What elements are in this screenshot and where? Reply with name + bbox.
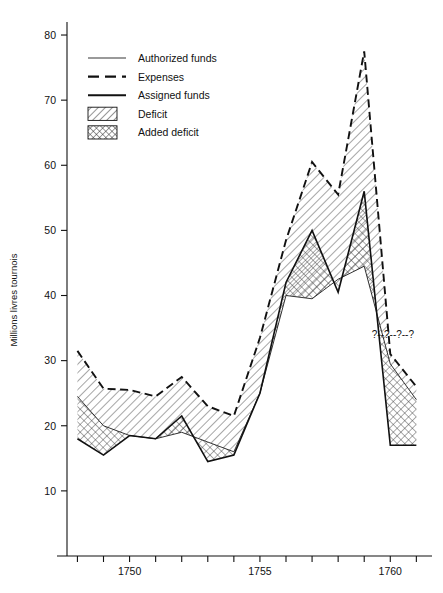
y-tick-label: 10 xyxy=(44,485,56,497)
chart-legend: Authorized fundsExpensesAssigned fundsDe… xyxy=(88,52,217,139)
x-axis-tick-labels: 175017551760 xyxy=(118,565,402,577)
x-tick-label: 1760 xyxy=(379,565,403,577)
y-axis-title: Millions livres tournois xyxy=(8,253,19,346)
chart-figure: 1020304050607080 175017551760 Millions l… xyxy=(0,0,443,593)
legend-label: Added deficit xyxy=(138,126,199,138)
legend-label: Assigned funds xyxy=(138,89,210,101)
legend-swatch-diagonal-hatch-box xyxy=(88,107,117,120)
legend-swatch-cross-hatch-box xyxy=(88,126,117,139)
x-tick-label: 1755 xyxy=(248,565,272,577)
legend-item-assigned-funds: Assigned funds xyxy=(88,89,210,101)
y-tick-label: 70 xyxy=(44,94,56,106)
y-tick-label: 40 xyxy=(44,289,56,301)
chart-canvas: 1020304050607080 175017551760 Millions l… xyxy=(0,0,443,593)
y-axis-tick-labels: 1020304050607080 xyxy=(44,29,56,497)
y-tick-label: 50 xyxy=(44,224,56,236)
y-tick-label: 60 xyxy=(44,159,56,171)
y-tick-label: 80 xyxy=(44,29,56,41)
chart-annotations: ?--?--?--? xyxy=(372,329,415,340)
legend-item-added-deficit: Added deficit xyxy=(88,126,199,139)
legend-item-authorized-funds: Authorized funds xyxy=(88,52,217,64)
legend-label: Authorized funds xyxy=(138,52,217,64)
legend-label: Deficit xyxy=(138,108,167,120)
legend-item-expenses: Expenses xyxy=(88,71,184,83)
legend-item-deficit: Deficit xyxy=(88,107,167,120)
x-axis-ticks xyxy=(77,556,416,562)
chart-annotation-uncertain: ?--?--?--? xyxy=(372,329,415,340)
y-axis-ticks xyxy=(61,35,67,491)
band-layer xyxy=(77,51,416,461)
legend-label: Expenses xyxy=(138,71,184,83)
x-tick-label: 1750 xyxy=(118,565,142,577)
y-tick-label: 30 xyxy=(44,354,56,366)
y-tick-label: 20 xyxy=(44,420,56,432)
